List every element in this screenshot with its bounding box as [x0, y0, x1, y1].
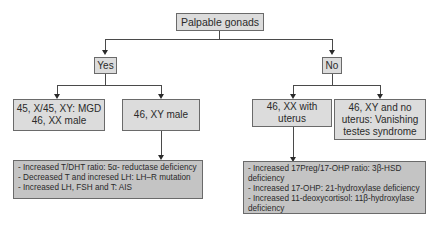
connector	[161, 85, 162, 94]
connector	[332, 74, 333, 85]
node-line: 46, XY and no	[348, 102, 411, 114]
detail-item: - Decreased T and incresed LH: LH–R muta…	[18, 173, 191, 183]
detail-item: - Increased T/DHT ratio: 5α- reductase d…	[18, 163, 197, 173]
connector	[57, 85, 162, 86]
connector	[219, 30, 220, 39]
node-line: 45, X/45, XY: MGD	[17, 103, 101, 115]
xx-uterus-node: 46, XX with uterus	[252, 99, 332, 127]
mgd-node: 45, X/45, XY: MGD 46, XX male	[13, 99, 105, 131]
root-label: Palpable gonads	[181, 16, 259, 28]
connector	[293, 126, 294, 159]
node-line: 46, XY male	[134, 109, 188, 121]
detail-item: - Increased 17-OHP: 21-hydroxylase defic…	[248, 184, 420, 194]
connector	[105, 74, 106, 85]
node-line: uterus: Vanishing	[342, 114, 419, 126]
arrow-icon	[329, 50, 335, 55]
xy-male-node: 46, XY male	[122, 99, 200, 131]
node-line: 46, XX male	[32, 115, 86, 127]
node-line: 46, XX with	[267, 101, 318, 113]
yes-detail-box: - Increased T/DHT ratio: 5α- reductase d…	[13, 160, 203, 199]
node-line: uterus	[278, 113, 306, 125]
root-node: Palpable gonads	[176, 13, 264, 31]
detail-item: - Increased 17Preg/17-OHP ratio: 3β-HSD …	[248, 164, 421, 184]
vanishing-testes-node: 46, XY and no uterus: Vanishing testes s…	[334, 99, 426, 140]
yes-label: Yes	[97, 60, 113, 72]
connector	[293, 85, 294, 94]
no-node: No	[322, 57, 342, 74]
connector	[380, 85, 381, 94]
connector	[105, 39, 333, 40]
connector	[57, 85, 58, 94]
arrow-icon	[102, 50, 108, 55]
connector	[293, 85, 381, 86]
no-detail-box: - Increased 17Preg/17-OHP ratio: 3β-HSD …	[243, 161, 426, 214]
detail-item: - Increased LH, FSH and T: AIS	[18, 183, 132, 193]
no-label: No	[326, 60, 339, 72]
yes-node: Yes	[94, 57, 117, 74]
detail-item: - Increased 11-deoxycortisol: 11β-hydrox…	[248, 194, 421, 214]
connector	[161, 130, 162, 156]
node-line: testes syndrome	[343, 126, 416, 138]
